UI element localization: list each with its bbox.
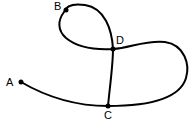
point-a-dot — [19, 80, 24, 85]
point-b-dot — [64, 8, 69, 13]
loop-right-lobe — [108, 42, 187, 106]
label-a: A — [6, 76, 14, 88]
label-b: B — [54, 0, 61, 12]
curve-a-to-c — [21, 82, 108, 106]
label-c: C — [104, 109, 112, 119]
line-c-to-d — [108, 49, 113, 106]
diagram-canvas: A B C D — [0, 0, 194, 119]
label-d: D — [116, 34, 124, 46]
point-c-dot — [106, 104, 111, 109]
point-d-dot — [111, 47, 116, 52]
